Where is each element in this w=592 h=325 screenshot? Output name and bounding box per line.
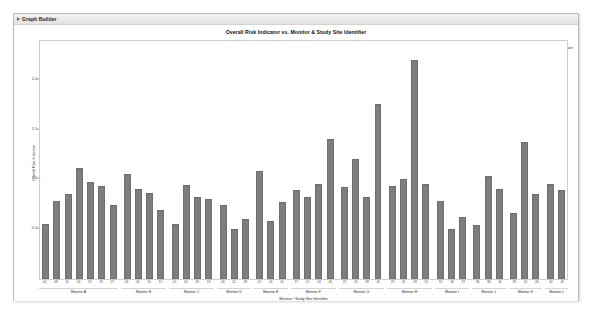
bar[interactable] (411, 60, 418, 279)
bar-slot[interactable] (471, 41, 482, 279)
bar[interactable] (157, 210, 164, 279)
bar-slot[interactable] (254, 41, 265, 279)
bar[interactable] (205, 199, 212, 279)
x-axis-tick-label: 11 (62, 280, 73, 285)
bar-slot[interactable] (122, 41, 133, 279)
bar[interactable] (304, 197, 311, 280)
bar-slot[interactable] (302, 41, 313, 279)
bar[interactable] (315, 184, 322, 279)
bar[interactable] (183, 185, 190, 279)
bar[interactable] (65, 194, 72, 279)
bar[interactable] (135, 189, 142, 279)
bar[interactable] (400, 179, 407, 279)
bar[interactable] (448, 229, 455, 279)
bar[interactable] (267, 221, 274, 279)
bar[interactable] (389, 186, 396, 279)
bar[interactable] (327, 139, 334, 279)
x-axis-tick-label: 25 (350, 280, 361, 285)
bar-slot[interactable] (155, 41, 166, 279)
bar-slot[interactable] (277, 41, 288, 279)
bar-slot[interactable] (545, 41, 556, 279)
x-axis-tick-label: 38 (483, 280, 494, 285)
bar-slot[interactable] (85, 41, 96, 279)
bar-slot[interactable] (361, 41, 372, 279)
bar[interactable] (220, 205, 227, 279)
bar-group (122, 41, 167, 279)
bar-slot[interactable] (409, 41, 420, 279)
bar-slot[interactable] (40, 41, 51, 279)
window-titlebar[interactable]: Graph Builder (14, 14, 578, 25)
bar-slot[interactable] (457, 41, 468, 279)
bar-slot[interactable] (144, 41, 155, 279)
bar-slot[interactable] (62, 41, 73, 279)
bar[interactable] (473, 225, 480, 279)
bar-slot[interactable] (51, 41, 62, 279)
bar[interactable] (98, 186, 105, 279)
bar[interactable] (375, 104, 382, 279)
bar-slot[interactable] (482, 41, 493, 279)
bar-slot[interactable] (372, 41, 383, 279)
bar-slot[interactable] (265, 41, 276, 279)
bar-slot[interactable] (240, 41, 251, 279)
bar-slot[interactable] (446, 41, 457, 279)
bar-slot[interactable] (398, 41, 409, 279)
bar[interactable] (194, 197, 201, 280)
bar[interactable] (485, 176, 492, 279)
bar[interactable] (172, 224, 179, 279)
bar-slot[interactable] (435, 41, 446, 279)
bar[interactable] (547, 184, 554, 279)
bar-slot[interactable] (508, 41, 519, 279)
bar[interactable] (352, 159, 359, 279)
x-tick-group: 01050913 (169, 280, 214, 285)
bar[interactable] (87, 182, 94, 279)
bar-slot[interactable] (96, 41, 107, 279)
bar-slot[interactable] (203, 41, 214, 279)
bar-slot[interactable] (350, 41, 361, 279)
bar-slot[interactable] (192, 41, 203, 279)
bar-slot[interactable] (74, 41, 85, 279)
bar-slot[interactable] (420, 41, 431, 279)
bar[interactable] (341, 187, 348, 279)
bar[interactable] (532, 194, 539, 279)
bar[interactable] (363, 197, 370, 280)
bar-slot[interactable] (324, 41, 335, 279)
bar-slot[interactable] (229, 41, 240, 279)
bar[interactable] (279, 202, 286, 279)
bar[interactable] (521, 142, 528, 280)
bar[interactable] (42, 224, 49, 279)
bar-slot[interactable] (170, 41, 181, 279)
bar[interactable] (256, 171, 263, 279)
bar[interactable] (76, 168, 83, 279)
x-tick-group: 04081114192327 (39, 280, 118, 285)
x-axis-tick-label: 04 (39, 280, 50, 285)
bar-slot[interactable] (387, 41, 398, 279)
bar[interactable] (146, 193, 153, 279)
bar-slot[interactable] (133, 41, 144, 279)
bar[interactable] (242, 219, 249, 279)
bar[interactable] (110, 205, 117, 279)
bar[interactable] (231, 229, 238, 279)
bar-slot[interactable] (494, 41, 505, 279)
bar-slot[interactable] (313, 41, 324, 279)
bar[interactable] (293, 190, 300, 279)
bar[interactable] (496, 189, 503, 279)
bar[interactable] (53, 201, 60, 279)
bar[interactable] (422, 184, 429, 279)
bar-slot[interactable] (530, 41, 541, 279)
bar-slot[interactable] (339, 41, 350, 279)
bar-slot[interactable] (291, 41, 302, 279)
bar[interactable] (558, 190, 565, 279)
x-axis-group-label: Monitor E (254, 288, 288, 296)
bar[interactable] (459, 217, 466, 279)
bar-slot[interactable] (519, 41, 530, 279)
bar-slot[interactable] (107, 41, 118, 279)
bar[interactable] (437, 201, 444, 279)
bar[interactable] (124, 174, 131, 279)
x-axis-group-label: Monitor K (509, 288, 543, 296)
bar-slot[interactable] (556, 41, 567, 279)
x-tick-group: 29313335 (387, 280, 432, 285)
bar-slot[interactable] (217, 41, 228, 279)
disclosure-triangle-icon[interactable] (17, 17, 20, 21)
bar-slot[interactable] (181, 41, 192, 279)
bar[interactable] (510, 213, 517, 279)
